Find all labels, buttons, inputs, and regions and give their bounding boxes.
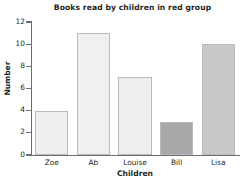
x-axis-tick-label: Louise [114, 158, 156, 168]
y-axis-tick-label: 0 [1, 151, 25, 159]
bar [118, 77, 151, 155]
bar [202, 44, 235, 155]
bar-chart: Books read by children in red group 0246… [0, 0, 245, 182]
bar [160, 122, 193, 155]
y-axis-tick-label: 12 [1, 18, 25, 26]
plot-area [31, 22, 239, 155]
y-axis-tick-label: 10 [1, 40, 25, 48]
x-axis-tick-label: Lisa [197, 158, 239, 168]
x-axis-tick-label: Bill [156, 158, 198, 168]
chart-title: Books read by children in red group [30, 3, 235, 13]
bar [77, 33, 110, 155]
bar [35, 111, 68, 155]
y-axis-tick-label: 2 [1, 128, 25, 136]
y-axis-title: Number [3, 49, 12, 109]
x-axis-title: Children [31, 169, 239, 179]
x-axis-tick-label: Ab [73, 158, 115, 168]
x-axis-tick-label: Zoe [31, 158, 73, 168]
